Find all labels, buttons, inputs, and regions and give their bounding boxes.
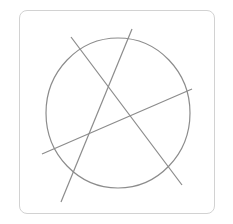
line-1 (71, 37, 182, 185)
geometry-diagram (0, 0, 233, 224)
circle-shape (46, 38, 190, 188)
